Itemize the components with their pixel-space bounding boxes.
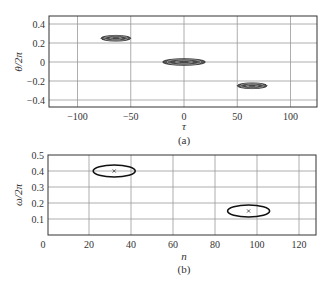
panel-b-grid [48,155,316,235]
x-tick-label: 50 [232,111,242,122]
peak-marker [228,205,270,217]
y-tick-label: 0.2 [33,38,46,49]
y-tick-label: −0.4 [27,95,45,106]
y-tick-label: 0.5 [32,150,45,161]
x-tick-label: 80 [210,239,220,250]
panel-a-caption: (a) [178,134,191,147]
panel-b-frame [48,155,316,235]
x-tick-label: 40 [126,239,136,250]
y-tick-label: −0.2 [27,76,45,87]
panel-b-markers [93,165,269,217]
x-tick-label: 0 [41,239,46,250]
panel-a-y-ticks: 0.40.20−0.2−0.4 [27,19,45,106]
panel-b-y-label: ω/2π [12,184,24,206]
y-tick-label: 0.4 [32,166,45,177]
panel-b-caption: (b) [178,263,191,276]
x-tick-label: −100 [67,111,88,122]
x-tick-label: −50 [123,111,139,122]
y-tick-label: 0 [40,57,45,68]
panel-a-y-label: θ/2π [12,52,24,72]
y-tick-label: 0.3 [32,182,45,193]
y-tick-label: 0.2 [32,198,45,209]
y-tick-label: 0.4 [33,19,46,30]
x-tick-label: 20 [84,239,94,250]
x-tick-label: 60 [168,239,178,250]
panel-a: 0.40.20−0.2−0.4 −100−50050100 τ θ/2π (a) [12,16,317,147]
contour-blob [237,83,267,89]
panel-b-x-ticks: 020406080100120 [41,239,307,250]
panel-b: 0.50.40.30.20.1 020406080100120 n ω/2π (… [12,150,316,277]
x-tick-label: 120 [292,239,307,250]
figure: 0.40.20−0.2−0.4 −100−50050100 τ θ/2π (a)… [0,0,329,283]
panel-b-x-label: n [181,250,187,262]
contour-blob [101,35,131,41]
x-tick-label: 100 [283,111,298,122]
y-tick-label: 0.1 [32,214,45,225]
contour-blob [163,59,206,66]
panel-b-y-ticks: 0.50.40.30.20.1 [32,150,45,225]
x-tick-label: 100 [250,239,265,250]
